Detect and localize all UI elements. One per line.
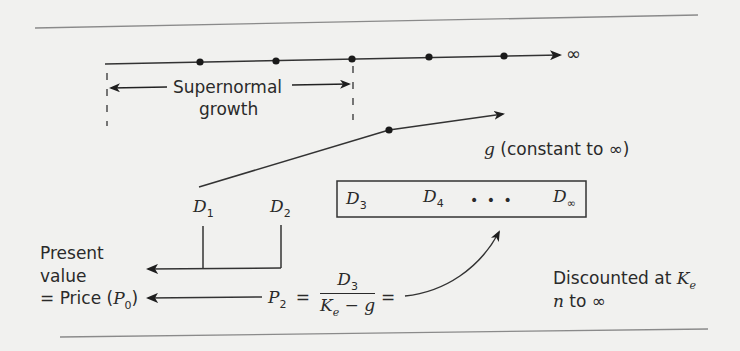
n-symbol: n (553, 291, 564, 311)
formula-equals-2: = (381, 287, 395, 307)
discount-label-line2: n to ∞ (553, 291, 606, 311)
price-suffix: ) (132, 288, 139, 308)
d3-sub: 3 (360, 199, 367, 212)
future-dividends-box (337, 181, 586, 217)
present-value-line1: Present (40, 243, 104, 263)
timeline-infinity-label: ∞ (566, 44, 581, 64)
dividend-growth-diagram: ∞ Supernormal growth g (constant to ∞) D… (0, 0, 740, 351)
discount-label-line1: Discounted at Ke (553, 268, 696, 291)
dividend-d4: D4 (423, 186, 444, 209)
timeline-period-dots (196, 52, 507, 65)
d4-sub: 4 (437, 197, 444, 210)
p2-base: P (268, 287, 279, 307)
supernormal-left-arrow (111, 87, 167, 88)
ke-base: K (677, 268, 690, 288)
growth-transition-dot (385, 126, 392, 133)
formula-to-box-curved-arrow (405, 232, 499, 296)
g-symbol: g (484, 139, 495, 159)
fraction-numerator: D3 (320, 269, 375, 294)
present-value-line2: value (40, 266, 86, 286)
formula-fraction: D3 Ke − g (320, 269, 375, 318)
growth-line (199, 130, 389, 187)
growth-rate-label: g (constant to ∞) (484, 139, 630, 159)
dividend-ellipsis: • • • (470, 190, 514, 210)
pv-d1-d2-arrow (148, 268, 281, 269)
p0-base: P (113, 288, 124, 308)
supernormal-label-line1: Supernormal (173, 77, 282, 97)
fraction-denominator: Ke − g (320, 294, 375, 318)
d1-base: D (193, 196, 207, 216)
bottom-rule (60, 329, 708, 337)
d3-base: D (346, 188, 360, 208)
dinf-sub: ∞ (567, 197, 576, 210)
formula-equals: = (296, 287, 310, 307)
growth-rate-text: (constant to ∞) (495, 139, 630, 159)
d2-base: D (270, 196, 284, 216)
top-rule (35, 15, 698, 28)
supernormal-label-line2: growth (199, 99, 258, 119)
dividend-d2: D2 (270, 196, 291, 219)
present-value-line3: = Price (P0) (40, 288, 138, 311)
p0-sub: 0 (125, 299, 132, 312)
p2-to-price-arrow (148, 297, 262, 298)
dinf-base: D (553, 186, 567, 206)
dividend-d1: D1 (193, 196, 214, 219)
d1-sub: 1 (207, 207, 214, 220)
d4-base: D (423, 186, 437, 206)
formula-lhs: P2 = (268, 287, 310, 310)
n-to-infinity: to ∞ (564, 291, 606, 311)
supernormal-right-arrow (292, 84, 349, 85)
p2-sub: 2 (279, 298, 286, 311)
dividend-d-infinity: D∞ (553, 186, 576, 209)
ke-sub: e (689, 279, 696, 292)
constant-growth-arrow (389, 114, 503, 130)
timeline-axis (105, 55, 560, 64)
discount-text: Discounted at (553, 268, 677, 288)
d2-sub: 2 (284, 207, 291, 220)
price-prefix: = Price ( (40, 288, 113, 308)
dividend-d3: D3 (346, 188, 367, 211)
